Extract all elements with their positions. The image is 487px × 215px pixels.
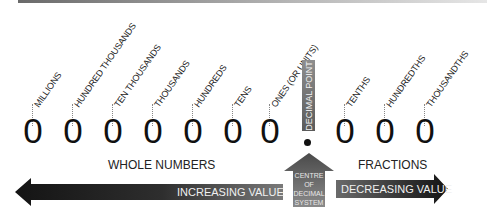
place-column-tens: TENS 0 — [218, 0, 248, 160]
decreasing-value-label: DECREASING VALUE — [341, 183, 452, 195]
place-column-tenths: TENTHS 0 — [330, 0, 360, 160]
centre-label-line: OF — [284, 180, 334, 189]
digit: 0 — [18, 113, 48, 148]
decimal-point-label-box: DECIMAL POINT — [302, 60, 315, 131]
centre-label-line: CENTRE — [284, 171, 334, 180]
place-column-ten-thousands: TEN THOUSANDS 0 — [98, 0, 128, 160]
increasing-value-arrow: INCREASING VALUE — [15, 178, 283, 206]
digit: 0 — [255, 113, 285, 148]
digit: 0 — [58, 113, 88, 148]
centre-of-decimal-system-label: CENTRE OF DECIMAL SYSTEM — [284, 171, 334, 207]
place-label: TENS — [233, 85, 254, 109]
place-label: TENTHS — [345, 75, 372, 109]
place-column-hundreds: HUNDREDS 0 — [178, 0, 208, 160]
digit: 0 — [370, 113, 400, 148]
place-label: THOUSANDTHS — [425, 50, 470, 109]
digit: 0 — [98, 113, 128, 148]
digit: 0 — [218, 113, 248, 148]
digit: 0 — [178, 113, 208, 148]
digit: 0 — [138, 113, 168, 148]
digit: 0 — [330, 113, 360, 148]
centre-of-decimal-system-arrow: CENTRE OF DECIMAL SYSTEM — [284, 153, 334, 207]
place-column-thousands: THOUSANDS 0 — [138, 0, 168, 160]
decimal-point-dot — [304, 139, 311, 146]
centre-label-line: DECIMAL — [284, 189, 334, 198]
digit: 0 — [410, 113, 440, 148]
whole-numbers-label: WHOLE NUMBERS — [108, 158, 215, 172]
increasing-value-label: INCREASING VALUE — [177, 186, 284, 198]
place-column-thousandths: THOUSANDTHS 0 — [410, 0, 440, 160]
place-column-hundredths: HUNDREDTHS 0 — [370, 0, 400, 160]
centre-label-line: SYSTEM — [284, 198, 334, 207]
decimal-point-label: DECIMAL POINT — [304, 61, 313, 131]
decreasing-value-arrow: DECREASING VALUE — [336, 174, 448, 204]
place-column-hundred-thousands: HUNDRED THOUSANDS 0 — [58, 0, 88, 160]
place-column-ones: ONES (OR UNITS) 0 — [255, 0, 285, 160]
place-column-millions: MILLIONS 0 — [18, 0, 48, 160]
fractions-label: FRACTIONS — [358, 158, 427, 172]
